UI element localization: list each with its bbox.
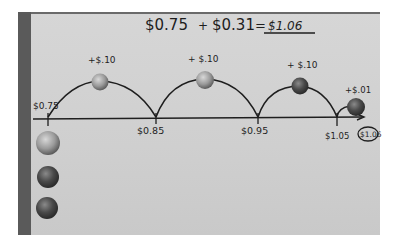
number-line-axis	[33, 117, 362, 119]
equation-title: $0.75 + $0.31 = $1.06	[145, 16, 315, 34]
quarter-coin-icon	[36, 131, 60, 155]
equation-plus: +	[198, 19, 208, 33]
equation-result: $1.06	[268, 19, 303, 33]
point-label-085: $0.85	[137, 125, 164, 136]
equation-addend: $0.31	[212, 16, 255, 34]
dime-coin-icon	[92, 74, 109, 91]
point-label-105: $1.05	[325, 131, 349, 141]
equation-equals: =	[255, 18, 266, 33]
penny-coin-icon	[347, 98, 365, 116]
jump-label-2: + $.10	[188, 54, 219, 64]
dime-coin-icon	[196, 71, 214, 89]
point-label-095: $0.95	[241, 125, 268, 136]
jump-label-3: + $.10	[287, 60, 318, 70]
equation-left: $0.75	[145, 16, 188, 34]
jump-label-4: +$.01	[345, 85, 371, 95]
jump-label-1: +$.10	[88, 55, 116, 65]
point-label-075: $0.75	[33, 101, 59, 111]
number-line-drawing: $0.75 + $0.31 = $1.06 +$.10 + $.10 + $.1…	[0, 0, 395, 246]
quarter-dark-coin-icon	[37, 166, 59, 188]
point-label-106: $1.06	[360, 130, 382, 139]
dime-coin-icon	[292, 78, 309, 95]
penny-coin-icon	[36, 197, 58, 219]
